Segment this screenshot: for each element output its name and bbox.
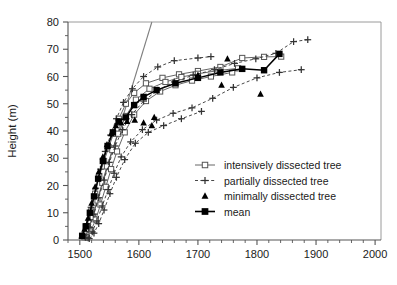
marker-filled-square	[172, 80, 178, 86]
y-tick-label: 30	[47, 152, 59, 164]
y-tick-label: 80	[47, 16, 59, 28]
marker-filled-square	[239, 66, 245, 72]
y-tick-label: 20	[47, 180, 59, 192]
y-tick-label: 70	[47, 43, 59, 55]
marker-filled-square	[100, 158, 106, 164]
marker-filled-triangle	[257, 91, 264, 97]
legend-label-minimal: minimally dissected tree	[224, 190, 336, 202]
y-axis-title: Height (m)	[6, 104, 18, 158]
marker-open-square	[143, 81, 148, 86]
x-axis: 150016001700180019002000	[68, 240, 388, 260]
marker-filled-triangle	[202, 192, 209, 199]
series-line	[87, 72, 232, 237]
x-tick-label: 1600	[127, 248, 151, 260]
marker-filled-square	[104, 143, 110, 149]
marker-filled-square	[79, 233, 85, 239]
marker-filled-square	[217, 69, 223, 75]
marker-filled-square	[116, 118, 122, 124]
marker-filled-square	[153, 87, 159, 93]
y-tick-label: 0	[53, 234, 59, 246]
y-tick-label: 50	[47, 98, 59, 110]
marker-filled-square	[202, 208, 209, 215]
marker-filled-square	[123, 114, 129, 120]
marker-filled-square	[87, 210, 93, 216]
marker-filled-triangle	[140, 119, 147, 125]
y-tick-label: 40	[47, 125, 59, 137]
y-tick-label: 60	[47, 71, 59, 83]
marker-filled-triangle	[224, 55, 231, 61]
marker-open-square	[109, 167, 114, 172]
chart-figure: 1500160017001800190020000102030405060708…	[0, 0, 397, 285]
data-series	[78, 36, 311, 242]
legend-item-minimal[interactable]: minimally dissected tree	[202, 190, 337, 202]
marker-filled-square	[83, 223, 89, 229]
marker-open-square	[240, 55, 245, 60]
marker-filled-square	[276, 51, 282, 57]
marker-open-square	[163, 79, 168, 84]
legend-item-mean[interactable]: mean	[195, 206, 250, 218]
x-tick-label: 1900	[304, 248, 328, 260]
legend-label-intensive: intensively dissected tree	[224, 159, 341, 171]
marker-filled-square	[140, 94, 146, 100]
marker-filled-square	[91, 193, 97, 199]
legend-item-intensive[interactable]: intensively dissected tree	[195, 159, 341, 171]
marker-open-square	[147, 86, 152, 91]
legend-item-partial[interactable]: partially dissected tree	[195, 175, 329, 187]
marker-filled-triangle	[218, 82, 225, 88]
y-tick-label: 10	[47, 207, 59, 219]
x-tick-label: 1500	[68, 248, 92, 260]
marker-open-square	[116, 131, 121, 136]
marker-filled-square	[110, 129, 116, 135]
marker-filled-square	[261, 67, 267, 73]
legend-label-partial: partially dissected tree	[224, 175, 329, 187]
y-axis: 01020304050607080Height (m)	[6, 16, 68, 246]
legend-label-mean: mean	[224, 206, 250, 218]
marker-filled-square	[131, 102, 137, 108]
marker-open-square	[114, 149, 119, 154]
x-tick-label: 1800	[245, 248, 269, 260]
chart-canvas: 1500160017001800190020000102030405060708…	[0, 0, 397, 285]
chart-legend: intensively dissected treepartially diss…	[195, 159, 341, 218]
series-line	[89, 111, 201, 238]
x-tick-label: 1700	[186, 248, 210, 260]
marker-filled-square	[95, 175, 101, 181]
marker-filled-square	[195, 75, 201, 81]
marker-open-square	[202, 162, 207, 167]
x-tick-label: 2000	[363, 248, 387, 260]
